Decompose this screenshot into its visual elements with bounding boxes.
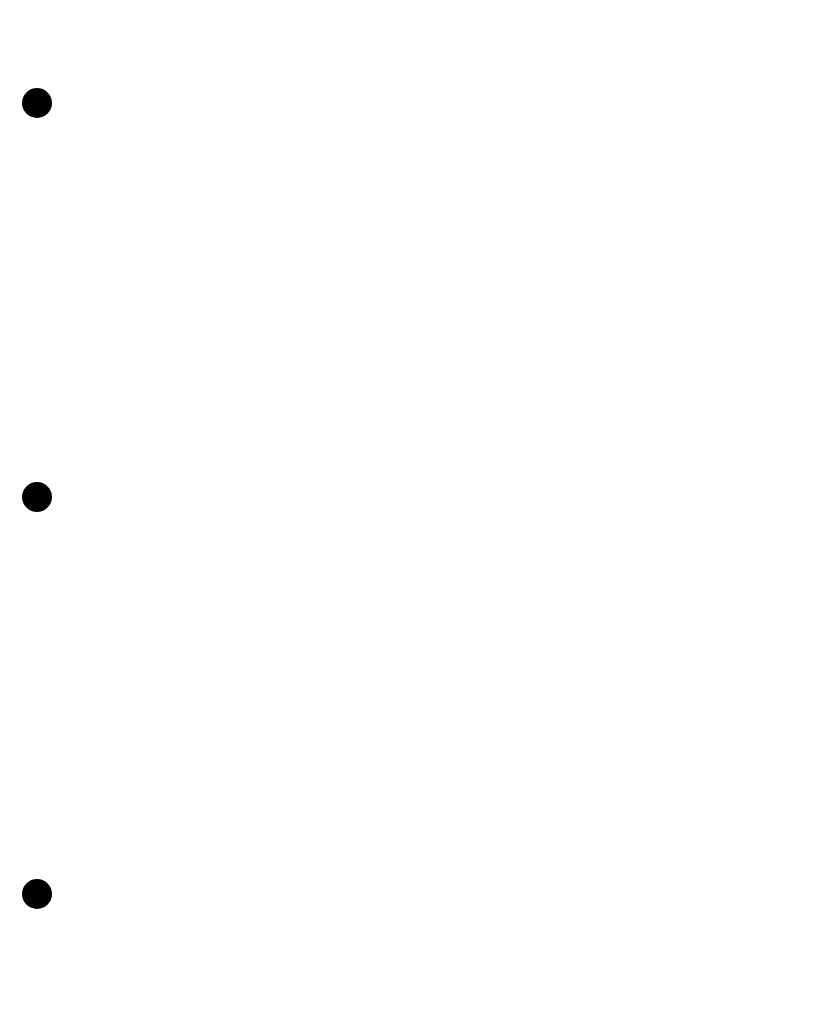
punch-hole-bottom — [22, 879, 52, 909]
blank-page — [0, 0, 817, 1011]
punch-hole-top — [22, 88, 52, 118]
punch-hole-middle — [22, 482, 52, 512]
